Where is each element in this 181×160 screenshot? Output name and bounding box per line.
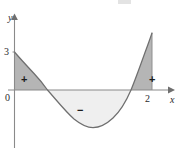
negative-sign-label-middle: −	[77, 105, 83, 116]
y-tick-label-3: 3	[4, 47, 9, 57]
x-axis-arrowhead	[168, 87, 175, 94]
signed-area-figure: y x 3 0 2 + − +	[0, 0, 181, 160]
positive-sign-label-right: +	[149, 74, 155, 85]
x-tick-label-2: 2	[145, 94, 150, 104]
negative-area-region	[48, 90, 132, 128]
positive-sign-label-left: +	[21, 74, 27, 85]
x-tick-label-0: 0	[5, 93, 10, 103]
x-axis-label: x	[170, 95, 174, 105]
y-axis-label: y	[8, 13, 12, 23]
